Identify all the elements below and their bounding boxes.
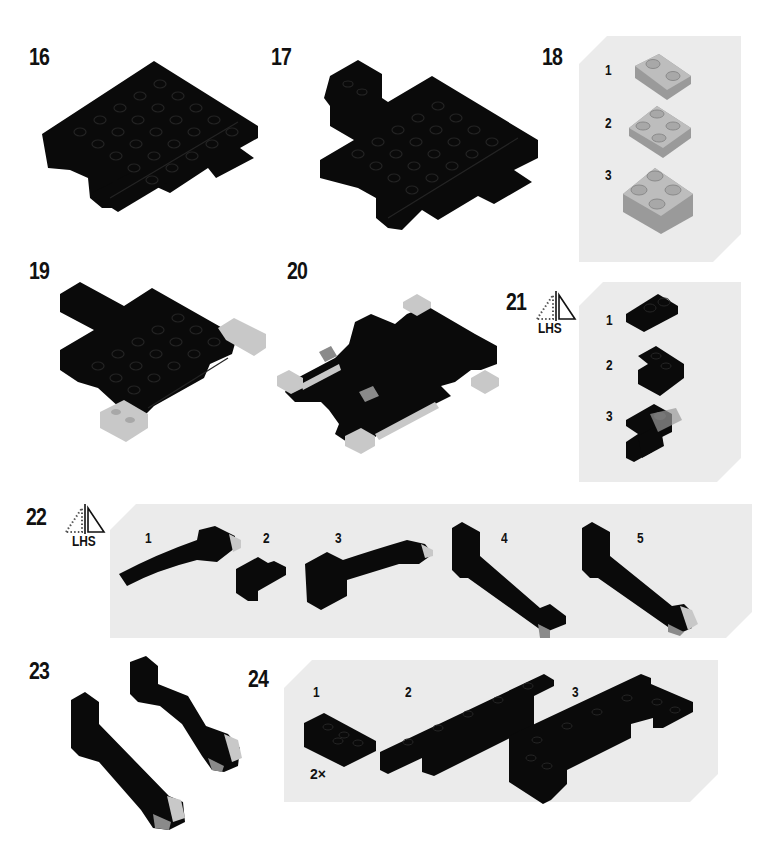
step-17-model-image xyxy=(318,58,542,254)
step-21-sub-2-brick-image xyxy=(636,344,686,400)
step-18-number: 18 xyxy=(542,44,562,71)
step-20-number: 20 xyxy=(287,258,307,285)
step-24-sub-3-rail-image xyxy=(507,672,697,804)
step-20-model-image xyxy=(275,284,505,464)
step-22-sub-2-brick-image xyxy=(234,553,288,603)
step-21-sub-3-number: 3 xyxy=(606,408,613,424)
step-19-number: 19 xyxy=(29,258,49,285)
step-24-sub-1-plate-image xyxy=(302,711,378,769)
step-22-sub-3-arm-image xyxy=(303,540,435,612)
step-19-model-image xyxy=(58,278,268,450)
step-21-sub-2-number: 2 xyxy=(606,357,613,373)
step-21-sub-1-brick-image xyxy=(624,292,680,334)
step-23-arm-2-image xyxy=(128,654,248,782)
step-18-sub-1-number: 1 xyxy=(605,62,612,78)
step-21-sub-1-number: 1 xyxy=(606,312,613,328)
step-23-number: 23 xyxy=(29,658,49,685)
step-22-sub-1-arm-image xyxy=(117,526,243,588)
step-18-sub-2-number: 2 xyxy=(605,115,612,131)
step-21-number: 21 xyxy=(506,289,526,316)
step-17-number: 17 xyxy=(271,44,291,71)
step-22-sub-4-arm-image xyxy=(450,520,568,638)
step-18-sub-1-brick-image xyxy=(633,52,693,102)
step-18-sub-2-brick-image xyxy=(627,104,693,160)
step-24-sub-1-number: 1 xyxy=(313,684,320,700)
step-24-number: 24 xyxy=(248,666,268,693)
step-22-lhs-label: LHS xyxy=(72,533,96,549)
step-21-lhs-label: LHS xyxy=(538,320,562,336)
step-18-sub-3-brick-image xyxy=(621,166,695,236)
step-16-model-image xyxy=(40,58,260,248)
step-21-sub-3-brick-image xyxy=(624,402,694,472)
step-22-sub-2-number: 2 xyxy=(263,530,270,546)
step-22-number: 22 xyxy=(26,504,46,531)
step-18-sub-3-number: 3 xyxy=(605,167,612,183)
step-22-sub-5-arm-image xyxy=(580,520,700,636)
